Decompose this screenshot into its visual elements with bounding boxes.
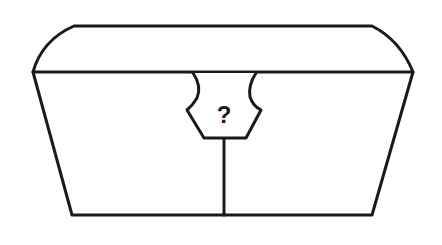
treasure-chest-diagram: ?	[0, 0, 442, 245]
lock-question-mark: ?	[217, 101, 232, 128]
chest-lid	[33, 26, 413, 72]
